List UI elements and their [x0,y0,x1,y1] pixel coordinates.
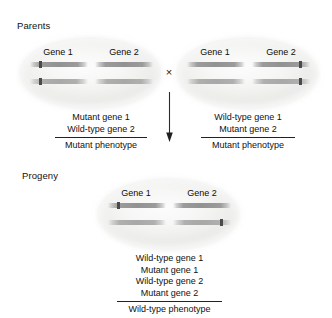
mutation-mark-gene2 [299,61,302,68]
parents-section-label: Parents [17,20,50,31]
progeny-gene1-heading: Gene 1 [109,188,163,198]
parent-left-cell: Gene 1 Gene 2 [21,39,160,108]
mutation-mark-gene1 [39,78,42,85]
genotype-line: Wild-type gene 2 [38,124,164,136]
parent-right-gene2-heading: Gene 2 [254,47,308,57]
genotype-line: Mutant gene 1 [106,265,233,277]
parent-left-chrom2-gene2 [95,79,153,84]
progeny-chrom1-gene1 [108,203,166,208]
parent-right-chrom1-gene2 [252,62,310,67]
parent-left-phenotype: Mutant phenotype [38,139,164,151]
progeny-chrom2-gene2 [173,220,231,225]
genotype-line: Wild-type gene 1 [106,253,233,265]
down-arrow-icon [164,92,175,142]
complementation-test-figure: Parents Progeny Gene 1 Gene 2 Gene 1 Gen… [0,0,332,318]
parent-right-chrom2-gene1 [187,79,245,84]
progeny-section-label: Progeny [22,170,58,181]
genotype-line: Wild-type gene 1 [184,112,312,124]
genotype-line: Mutant gene 2 [184,124,312,136]
progeny-gene2-heading: Gene 2 [175,188,229,198]
parent-left-genotype-block: Mutant gene 1 Wild-type gene 2 Mutant ph… [38,112,164,151]
genotype-divider [201,137,295,138]
parent-left-chrom2-gene1 [30,79,88,84]
parent-right-genotype-block: Wild-type gene 1 Mutant gene 2 Mutant ph… [184,112,312,151]
progeny-cell: Gene 1 Gene 2 [99,180,238,249]
mutation-mark-gene1 [117,202,120,209]
mutation-mark-gene2 [299,78,302,85]
mutation-mark-gene2 [220,219,223,226]
parent-right-gene1-heading: Gene 1 [188,47,242,57]
genotype-line: Wild-type gene 2 [106,276,233,288]
progeny-genotype-block: Wild-type gene 1 Mutant gene 1 Wild-type… [106,253,233,315]
genotype-divider [117,301,222,302]
genotype-line: Mutant gene 2 [106,288,233,300]
genotype-divider [55,137,147,138]
parent-left-gene2-heading: Gene 2 [97,47,151,57]
parent-right-chrom2-gene2 [252,79,310,84]
genotype-line: Mutant gene 1 [38,112,164,124]
parent-right-chrom1-gene1 [187,62,245,67]
parent-left-chrom1-gene2 [95,62,153,67]
cross-symbol: × [163,66,175,78]
mutation-mark-gene1 [39,61,42,68]
progeny-phenotype: Wild-type phenotype [106,303,233,315]
parent-left-gene1-heading: Gene 1 [31,47,85,57]
progeny-chrom2-gene1 [108,220,166,225]
parent-right-phenotype: Mutant phenotype [184,139,312,151]
progeny-chrom1-gene2 [173,203,231,208]
parent-left-chrom1-gene1 [30,62,88,67]
parent-right-cell: Gene 1 Gene 2 [178,39,317,108]
